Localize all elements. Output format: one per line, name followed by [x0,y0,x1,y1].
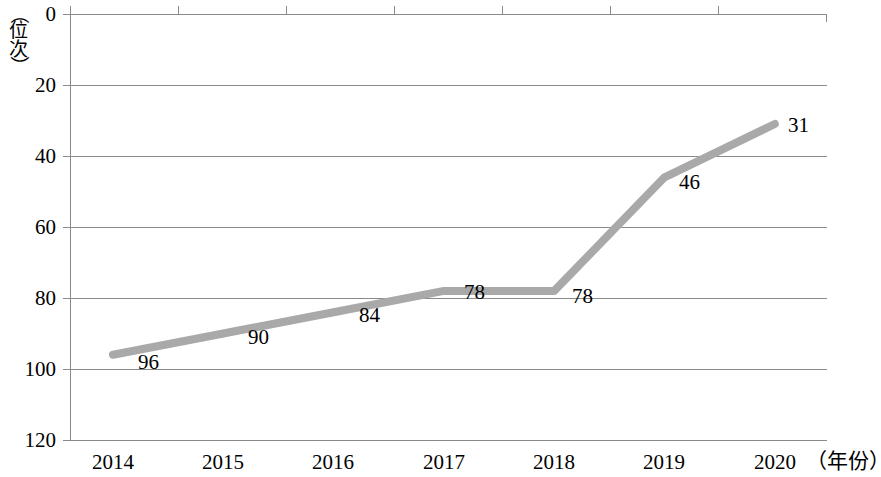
x-tick-label-2014: 2014 [68,452,158,473]
point-label-2019: 46 [679,172,700,193]
point-label-2016: 84 [359,305,380,326]
gridlines [70,15,827,441]
point-label-2014: 96 [138,352,159,373]
point-label-2017: 78 [464,282,485,303]
y-tick-label-80: 80 [8,288,56,309]
y-tick-label-40: 40 [8,146,56,167]
y-tick-label-120: 120 [8,430,56,451]
point-label-2018: 78 [572,286,593,307]
y-tick-label-20: 20 [8,75,56,96]
data-series-line [113,124,775,355]
x-axis-title: （年份） [806,451,881,472]
y-axis-title-close-paren: ） [12,54,25,78]
point-label-2020: 31 [788,115,809,136]
y-tick-label-100: 100 [8,359,56,380]
x-tick-label-2017: 2017 [399,452,489,473]
x-tick-label-2018: 2018 [509,452,599,473]
x-tick-label-2016: 2016 [288,452,378,473]
x-tick-label-2019: 2019 [619,452,709,473]
x-tick-label-2015: 2015 [178,452,268,473]
point-label-2015: 90 [248,327,269,348]
y-tick-label-60: 60 [8,217,56,238]
y-tick-label-0: 0 [8,4,56,25]
y-axis-ticks [63,15,70,441]
